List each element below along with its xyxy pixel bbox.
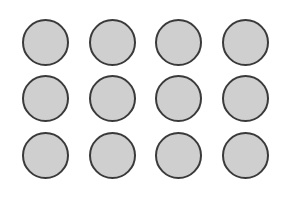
circle [22,19,69,66]
circle [22,132,69,179]
circle [22,75,69,122]
circle [89,19,136,66]
circle [155,132,202,179]
circle [89,132,136,179]
circle [155,19,202,66]
circle [89,75,136,122]
circle [222,132,269,179]
circle [222,75,269,122]
circle [222,19,269,66]
circle [155,75,202,122]
circle-grid [0,0,281,198]
